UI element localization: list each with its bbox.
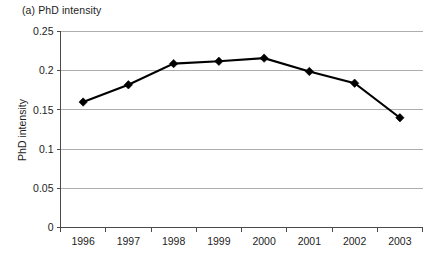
- data-point-markers: [79, 54, 404, 122]
- line-chart-plot: 00.050.10.150.20.25 19961997199819992000…: [0, 0, 441, 263]
- chart-figure: (a) PhD intensity 00.050.10.150.20.25 19…: [0, 0, 441, 263]
- data-point-marker: [215, 57, 223, 65]
- x-axis-tick-labels: 19961997199819992000200120022003: [71, 235, 411, 247]
- y-tick-label: 0.15: [33, 104, 54, 116]
- y-tick-label: 0.25: [33, 25, 54, 37]
- x-tick-label: 1998: [162, 235, 186, 247]
- x-tick-label: 2000: [252, 235, 276, 247]
- y-tick-label: 0.2: [39, 64, 54, 76]
- x-tick-label: 1996: [71, 235, 95, 247]
- data-point-marker: [124, 81, 132, 89]
- data-point-marker: [260, 54, 268, 62]
- data-series-phd-intensity: [83, 58, 400, 118]
- x-tick-label: 2003: [388, 235, 412, 247]
- x-tick-label: 2002: [343, 235, 367, 247]
- series-line-phd-intensity: [83, 58, 400, 118]
- data-point-marker: [79, 98, 87, 106]
- x-tick-label: 2001: [298, 235, 322, 247]
- y-axis-label: PhD intensity: [16, 98, 28, 161]
- data-point-marker: [169, 59, 177, 67]
- x-tick-label: 1999: [207, 235, 231, 247]
- axes-group: [57, 32, 423, 232]
- y-tick-label: 0: [48, 221, 54, 233]
- data-point-marker: [305, 67, 313, 75]
- y-axis-tick-labels: 00.050.10.150.20.25: [33, 25, 54, 233]
- gridlines-group: [61, 32, 423, 189]
- y-tick-label: 0.1: [39, 143, 54, 155]
- y-tick-label: 0.05: [33, 182, 54, 194]
- x-tick-label: 1997: [117, 235, 141, 247]
